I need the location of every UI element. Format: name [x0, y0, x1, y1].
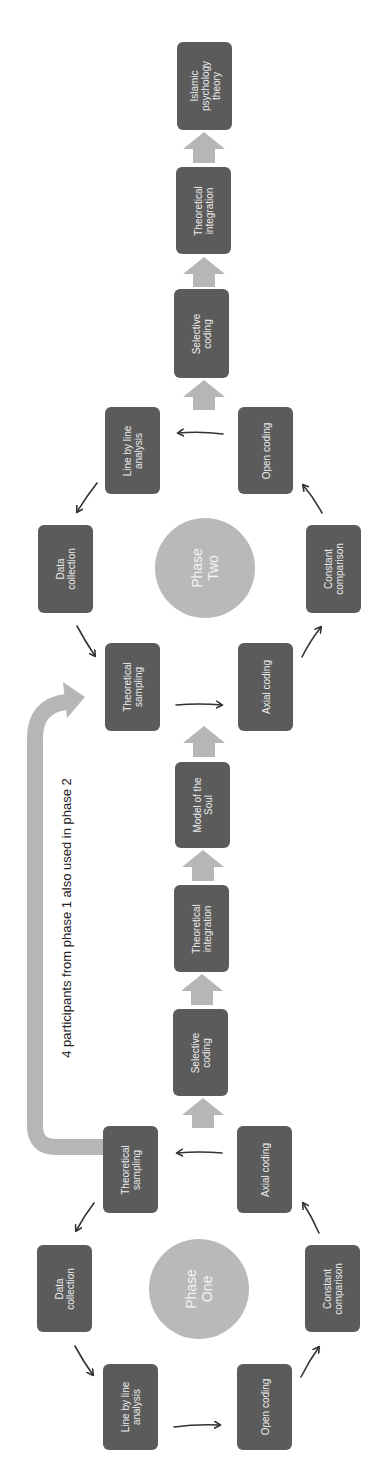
p2-constant-comparison-node: Constant comparison [306, 525, 361, 613]
node-label-line: sampling [131, 1128, 142, 1212]
arrow-right-icon [176, 704, 222, 705]
arrow-up-left-icon [303, 485, 322, 513]
model-of-the-soul-node: Model of the Soul [175, 762, 230, 848]
phase-two-label-line: Two [205, 523, 221, 613]
node-label-line: Theoretical [122, 645, 133, 729]
node-label-line: Open coding [260, 409, 271, 493]
node-label-line: comparison [333, 1247, 344, 1331]
node-label-line: comparison [334, 527, 345, 611]
node-label-line: Constant [322, 1247, 333, 1331]
islamic-psychology-theory-node: Islamic psychology theory [177, 42, 232, 130]
phase-one-label-line: One [199, 1244, 215, 1334]
node-label-line: coding [202, 292, 213, 376]
node-label-line: Open coding [259, 1365, 270, 1449]
block-arrow-up-icon [183, 132, 225, 163]
node-label-line: psychology [199, 44, 210, 128]
node-label-line: integration [202, 887, 213, 971]
arrow-down-left-icon [76, 1203, 94, 1231]
node-label-line: Theoretical [193, 169, 204, 253]
block-arrow-up-icon [183, 380, 225, 410]
node-label-line: coding [201, 1011, 212, 1095]
node-label-line: theory [210, 44, 221, 128]
p2-theoretical-integration-node: Theoretical integration [176, 167, 231, 254]
arrow-down-right-icon [77, 626, 95, 656]
node-label-line: Axial coding [260, 645, 271, 729]
node-label-line: Line by line [120, 1365, 131, 1449]
p1-constant-comparison-node: Constant comparison [305, 1245, 360, 1332]
block-arrow-up-icon [182, 850, 224, 881]
p2-data-collection-node: Data collection [38, 525, 93, 613]
p2-line-by-line-analysis-node: Line by line analysis [105, 407, 160, 494]
arrow-up-right-icon [301, 1347, 319, 1377]
node-label-line: Islamic [188, 44, 199, 128]
p1-selective-coding-node: Selective coding [173, 1009, 228, 1096]
node-label-line: Selective [190, 1011, 201, 1095]
p1-axial-coding-node: Axial coding [237, 1126, 292, 1213]
arrow-down-left-icon [77, 483, 97, 512]
p1-theoretical-integration-node: Theoretical integration [174, 885, 229, 972]
node-label-line: Model of the [192, 763, 203, 847]
arrow-right-icon [174, 1425, 220, 1427]
node-label-line: Constant [323, 527, 334, 611]
participants-annotation: 4 participants from phase 1 also used in… [59, 728, 74, 1108]
block-arrow-up-icon [182, 1098, 224, 1128]
node-label-line: Theoretical [120, 1128, 131, 1212]
node-label-line: Line by line [122, 409, 133, 493]
arrow-left-icon [178, 432, 223, 434]
phase-one-circle: Phase One [149, 1239, 249, 1339]
block-arrow-up-icon [183, 257, 225, 287]
node-label-line: Axial coding [259, 1128, 270, 1212]
block-arrow-up-icon [181, 974, 223, 1005]
p1-theoretical-sampling-node: Theoretical sampling [103, 1126, 158, 1213]
node-label-line: Data [54, 1247, 65, 1331]
p2-selective-coding-node: Selective coding [174, 289, 229, 378]
arrow-up-left-icon [303, 1203, 319, 1233]
arrow-down-right-icon [75, 1346, 93, 1375]
p1-data-collection-node: Data collection [37, 1245, 92, 1332]
node-label-line: collection [66, 527, 77, 611]
p2-theoretical-sampling-node: Theoretical sampling [105, 643, 160, 731]
node-label-line: integration [204, 169, 215, 253]
phase-two-circle: Phase Two [155, 518, 255, 618]
node-label-line: collection [65, 1247, 76, 1331]
arrow-up-right-icon [302, 627, 321, 657]
node-label-line: Selective [191, 292, 202, 376]
node-label-line: Data [55, 527, 66, 611]
node-label-line: Soul [203, 763, 214, 847]
phase-one-label-line: Phase [183, 1244, 199, 1334]
arrow-left-icon [177, 1152, 222, 1153]
p2-open-coding-node: Open coding [238, 407, 293, 494]
p1-open-coding-node: Open coding [237, 1364, 292, 1450]
grounded-theory-diagram: 4 participants from phase 1 also used in… [0, 0, 378, 1473]
p2-axial-coding-node: Axial coding [238, 643, 293, 731]
p1-line-by-line-analysis-node: Line by line analysis [103, 1364, 158, 1450]
node-label-line: analysis [131, 1365, 142, 1449]
phase-two-label-line: Phase [189, 523, 205, 613]
node-label-line: analysis [133, 409, 144, 493]
node-label-line: Theoretical [191, 887, 202, 971]
block-arrow-up-icon [183, 726, 225, 757]
node-label-line: sampling [133, 645, 144, 729]
